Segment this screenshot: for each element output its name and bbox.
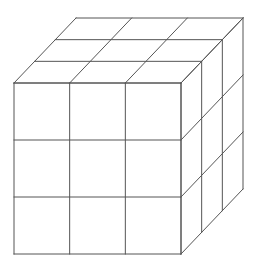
grid-line [181,189,243,254]
front-face [14,83,181,254]
cube-diagram [0,0,260,270]
top-face [14,18,243,83]
grid-line [181,75,243,140]
grid-line [181,132,243,197]
rubiks-cube-drawing [0,0,260,270]
grid-line [125,18,187,83]
right-face [181,18,243,254]
grid-line [181,18,243,83]
grid-line [14,18,76,83]
grid-line [70,18,132,83]
